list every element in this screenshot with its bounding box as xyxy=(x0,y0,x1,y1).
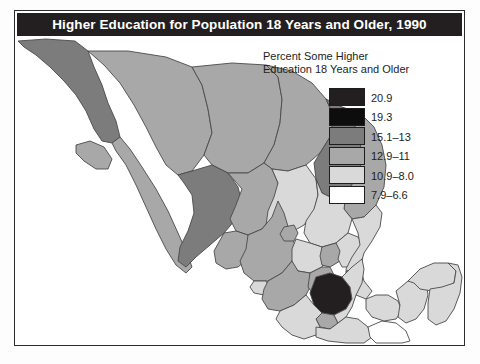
figure-panel: Higher Education for Population 18 Years… xyxy=(0,0,480,364)
legend-item-list: 20.9 19.3 15.1–13 12.9–11 10.9–8.0 7.9–6… xyxy=(329,88,414,205)
legend-item: 12.9–11 xyxy=(329,147,414,167)
legend-swatch-icon xyxy=(329,147,365,165)
legend-item-label: 7.9–6.6 xyxy=(371,189,408,201)
legend-swatch-icon xyxy=(329,186,365,204)
legend-item: 20.9 xyxy=(329,88,414,108)
legend-item-label: 12.9–11 xyxy=(371,150,410,162)
legend-title: Percent Some HigherEducation 18 Years an… xyxy=(263,50,443,76)
legend-item: 7.9–6.6 xyxy=(329,186,414,206)
legend-item-label: 15.1–13 xyxy=(371,131,411,143)
legend-swatch-icon xyxy=(329,108,365,126)
legend-item-label: 10.9–8.0 xyxy=(371,170,414,182)
legend-title-line2: Education 18 Years and Older xyxy=(263,63,409,75)
legend-swatch-icon xyxy=(329,127,365,145)
legend-item: 19.3 xyxy=(329,108,414,128)
region-chiapas xyxy=(368,321,410,343)
legend-item: 10.9–8.0 xyxy=(329,166,414,186)
legend-swatch-icon xyxy=(329,166,365,184)
map-legend: Percent Some HigherEducation 18 Years an… xyxy=(263,50,443,76)
legend-swatch-icon xyxy=(329,88,365,106)
legend-item-label: 20.9 xyxy=(371,92,392,104)
title-banner: Higher Education for Population 18 Years… xyxy=(17,13,462,36)
legend-title-line1: Percent Some Higher xyxy=(263,50,368,62)
legend-item-label: 19.3 xyxy=(371,111,392,123)
region-tabasco xyxy=(366,295,402,321)
page-title: Higher Education for Population 18 Years… xyxy=(52,17,426,32)
legend-item: 15.1–13 xyxy=(329,127,414,147)
